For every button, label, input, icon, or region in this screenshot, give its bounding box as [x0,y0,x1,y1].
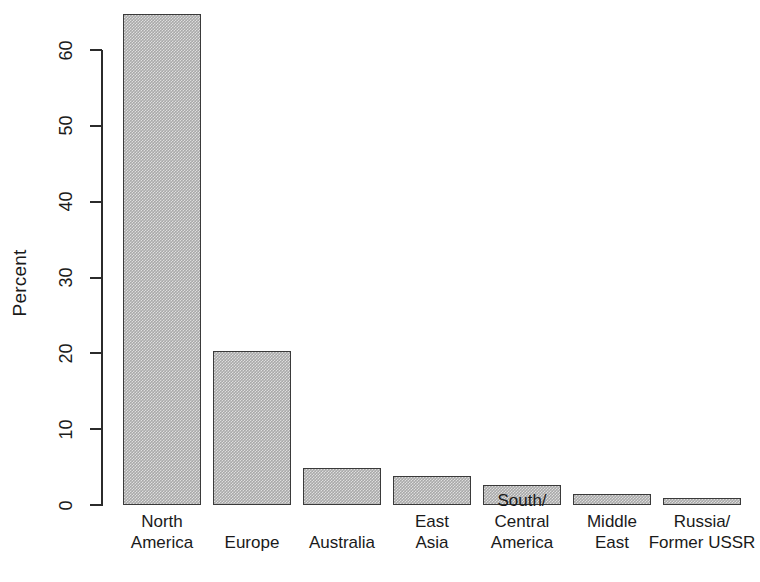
bar [213,351,291,505]
bar-chart: Percent 0102030405060 North AmericaEurop… [0,0,760,582]
bar [663,498,741,505]
x-axis-label: Russia/ Former USSR [627,511,760,553]
bar [123,14,201,505]
plot-area [0,0,760,582]
bar [303,468,381,505]
